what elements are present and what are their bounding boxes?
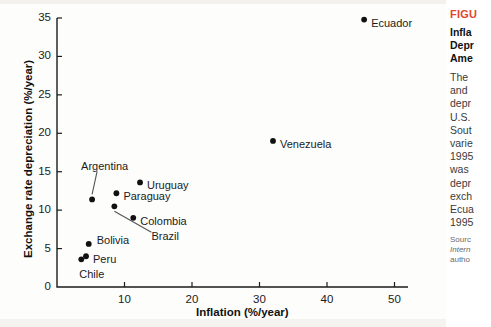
figure-source-line: Intern	[450, 245, 491, 255]
figure-title-line: Depr	[450, 39, 491, 52]
data-point	[137, 180, 143, 186]
data-point-label: Colombia	[140, 215, 186, 227]
figure-body-line: depr	[450, 97, 491, 110]
x-axis-title: Inflation (%/year)	[196, 306, 289, 318]
data-point	[361, 17, 367, 23]
plot-area	[0, 0, 410, 327]
figure-body-line: varie	[450, 137, 491, 150]
figure-title-line: Ame	[450, 52, 491, 65]
data-point	[270, 138, 276, 144]
data-point	[86, 241, 92, 247]
data-point	[111, 203, 117, 209]
data-point-label: Chile	[79, 268, 104, 280]
data-point-label: Venezuela	[280, 138, 331, 150]
data-point-label: Ecuador	[371, 17, 412, 29]
data-point-label: Bolivia	[97, 234, 129, 246]
figure-body-text: TheanddeprU.S.Soutvarie1995wasdeprexchEc…	[450, 71, 491, 229]
label-leader-line	[92, 171, 97, 194]
data-point	[89, 196, 95, 202]
figure-body-line: 1995	[450, 150, 491, 163]
x-tick-label: 10	[112, 293, 138, 305]
data-point	[130, 215, 136, 221]
x-tick-label: 30	[247, 293, 273, 305]
scatter-chart: 05101520253035 1020304050 ChilePeruBoliv…	[0, 0, 410, 327]
figure-body-line: was	[450, 163, 491, 176]
y-tick-label: 35	[29, 11, 51, 23]
data-point-label: Argentina	[81, 160, 128, 172]
figure-body-line: depr	[450, 177, 491, 190]
figure-body-line: and	[450, 84, 491, 97]
data-point-label: Brazil	[151, 230, 179, 242]
axis-lines	[57, 18, 408, 287]
data-point-label: Paraguay	[123, 190, 170, 202]
figure-source-line: autho	[450, 255, 491, 265]
x-tick-label: 20	[179, 293, 205, 305]
y-tick-label: 0	[29, 280, 51, 292]
figure-caption-column: FIGU InflaDeprAme TheanddeprU.S.Soutvari…	[446, 0, 491, 327]
figure-title-line: Infla	[450, 26, 491, 39]
figure-number-heading: FIGU	[450, 8, 491, 20]
x-tick-label: 40	[314, 293, 340, 305]
figure-title: InflaDeprAme	[450, 26, 491, 65]
x-tick-label: 50	[382, 293, 408, 305]
figure-page: 05101520253035 1020304050 ChilePeruBoliv…	[0, 0, 491, 327]
figure-body-line: exch	[450, 190, 491, 203]
y-axis-title: Exchange rate depreciation (%/year)	[22, 60, 34, 258]
data-point	[83, 253, 89, 259]
data-point-label: Uruguay	[147, 179, 189, 191]
data-point-label: Peru	[93, 253, 116, 265]
figure-source-note: SourcInternautho	[450, 235, 491, 265]
figure-body-line: 1995	[450, 216, 491, 229]
axis-ticks	[57, 18, 395, 287]
figure-body-line: The	[450, 71, 491, 84]
figure-body-line: Sout	[450, 124, 491, 137]
figure-source-line: Sourc	[450, 235, 491, 245]
figure-body-line: Ecua	[450, 203, 491, 216]
figure-body-line: U.S.	[450, 111, 491, 124]
data-point	[114, 190, 120, 196]
